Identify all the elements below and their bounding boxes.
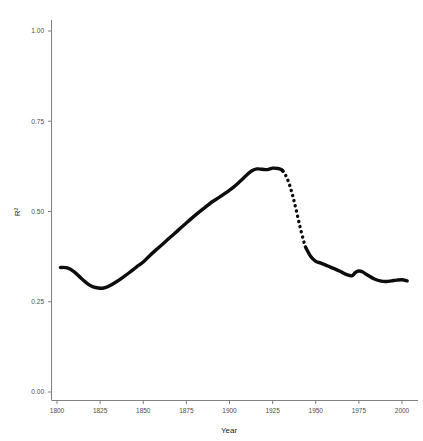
x-tick-label: 1875 — [179, 407, 194, 414]
x-axis-ticks — [57, 401, 402, 405]
x-tick-label: 2000 — [395, 407, 410, 414]
data-series-line-2 — [305, 247, 407, 282]
data-series-line-1 — [283, 171, 305, 247]
y-tick-label: 0.75 — [31, 118, 44, 125]
x-tick-label: 1825 — [93, 407, 108, 414]
chart-figure: 0.000.250.500.751.00 R² 1800182518501875… — [0, 0, 423, 441]
x-axis-tick-labels: 180018251850187519001925195019752000 — [50, 407, 410, 414]
x-tick-label: 1800 — [50, 407, 65, 414]
y-tick-label: 1.00 — [31, 27, 44, 34]
y-axis-title: R² — [13, 207, 22, 216]
x-axis: 180018251850187519001925195019752000 Yea… — [50, 401, 418, 436]
x-tick-label: 1950 — [309, 407, 324, 414]
x-tick-label: 1900 — [222, 407, 237, 414]
y-axis: 0.000.250.500.751.00 R² — [13, 20, 52, 400]
y-tick-label: 0.25 — [31, 298, 44, 305]
chart-canvas: 0.000.250.500.751.00 R² 1800182518501875… — [0, 0, 423, 441]
y-tick-label: 0.50 — [31, 208, 44, 215]
y-axis-ticks — [48, 31, 52, 392]
x-tick-label: 1925 — [265, 407, 280, 414]
data-series-line-0 — [60, 168, 283, 288]
x-tick-label: 1850 — [136, 407, 151, 414]
y-tick-label: 0.00 — [31, 388, 44, 395]
y-axis-tick-labels: 0.000.250.500.751.00 — [31, 27, 44, 395]
x-axis-title: Year — [221, 426, 238, 435]
x-tick-label: 1975 — [352, 407, 367, 414]
data-series-group — [60, 168, 407, 288]
